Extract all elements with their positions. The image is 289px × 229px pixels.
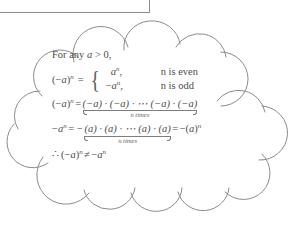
case-rows: an, n is even −an, n is odd <box>104 67 198 95</box>
figure-canvas: For any a > 0, (−a)n = { an, n is even −… <box>0 0 289 229</box>
therefore-symbol: ∴ <box>52 149 61 160</box>
negative-power-line: −an=−(a) · (a) · ⋯ (a) · (a)n times=−(a)… <box>52 124 272 137</box>
concl-left-open: (− <box>61 149 70 160</box>
intro-prefix: For any <box>52 49 87 60</box>
neg-factors: (a) · (a) · ⋯ (a) · (a) <box>84 124 170 137</box>
concl-right-exponent: n <box>103 147 106 154</box>
neg-underbrace-group: (a) · (a) · ⋯ (a) · (a)n times <box>84 124 170 137</box>
piecewise-lhs: (−a)n = <box>52 75 85 86</box>
case-even-comma: , <box>119 66 122 77</box>
neg-equals: = <box>67 123 76 134</box>
expand-underbrace-label: n times <box>83 112 198 119</box>
case-odd-value: −an, <box>104 81 142 92</box>
conclusion-line: ∴(−a)n≠−an <box>52 150 272 161</box>
lhs-exponent: n <box>70 73 73 80</box>
case-even-condition: n is even <box>147 67 198 78</box>
neg-result-exponent: n <box>198 122 201 129</box>
case-odd-condition: n is odd <box>142 81 194 92</box>
intro-relation: > 0, <box>92 49 111 60</box>
neg-equals-2: = <box>171 123 180 134</box>
math-derivation: For any a > 0, (−a)n = { an, n is even −… <box>52 50 272 160</box>
expand-equals: = <box>74 98 83 109</box>
equals-sign: = <box>76 74 85 85</box>
case-even-value: an, <box>104 67 147 78</box>
expand-factors: (−a) · (−a) · ⋯ (−a) · (−a) <box>83 99 198 112</box>
neg-minus: − <box>76 123 85 134</box>
piecewise-definition: (−a)n = { an, n is even −an, n is odd <box>52 67 272 95</box>
case-odd-comma: , <box>120 80 123 91</box>
neg-underbrace-label: n times <box>84 138 170 145</box>
case-brace: { <box>91 73 100 87</box>
expand-lhs-open: (− <box>52 98 61 109</box>
case-row-odd: −an, n is odd <box>104 81 198 95</box>
intro-line: For any a > 0, <box>52 50 272 61</box>
lhs-open: (− <box>52 74 61 85</box>
expand-underbrace-group: (−a) · (−a) · ⋯ (−a) · (−a)n times <box>83 99 198 112</box>
expansion-line: (−a)n=(−a) · (−a) · ⋯ (−a) · (−a)n times <box>52 99 272 112</box>
